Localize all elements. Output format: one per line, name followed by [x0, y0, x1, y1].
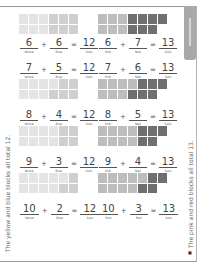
addend-a: 7Pink — [99, 63, 117, 79]
page-number-mark: ■ — [188, 250, 192, 255]
addend-b-value: 5 — [129, 110, 147, 121]
equation: 8Pink+5Red=13Sum — [98, 108, 170, 126]
block-a — [98, 79, 107, 89]
addend-b-value: 4 — [50, 110, 68, 121]
bond-item: 10Yellow+2Blue=12Sum — [19, 202, 91, 247]
section-tab — [184, 6, 196, 60]
equation: 6Pink+7Red=13Sum — [98, 36, 170, 54]
bond-item: 6Yellow+6Blue=12Sum — [19, 14, 91, 59]
block-b — [148, 79, 157, 89]
block-b — [49, 25, 58, 35]
equation: 10Yellow+2Blue=12Sum — [19, 202, 91, 220]
block-a — [118, 79, 127, 89]
block-a — [39, 90, 48, 100]
addend-b: 4Red — [129, 157, 147, 173]
equals-sign: = — [71, 41, 77, 49]
pink-red-column: 6Pink+7Red=13Sum7Pink+6Red=13Sum8Pink+5R… — [98, 14, 170, 247]
block-a — [128, 79, 137, 89]
equals-sign: = — [150, 113, 156, 121]
plus-sign: + — [41, 66, 47, 74]
plus-sign: + — [120, 113, 126, 121]
block-a — [39, 14, 48, 24]
block-b — [69, 90, 78, 100]
equals-sign: = — [71, 66, 77, 74]
block-a — [29, 79, 38, 89]
block-a — [108, 126, 117, 136]
addend-b: 3Blue — [50, 157, 68, 173]
equation: 8Yellow+4Blue=12Sum — [19, 108, 91, 126]
block-a — [118, 90, 127, 100]
block-a — [19, 173, 28, 183]
block-a — [59, 173, 68, 183]
block-a — [118, 126, 127, 136]
addend-a: 8Yellow — [20, 110, 38, 126]
addend-a-label: Pink — [105, 50, 111, 54]
block-a — [49, 137, 58, 147]
sum-value: 12 — [80, 38, 99, 49]
addend-b-value: 5 — [50, 63, 68, 74]
yellow-blue-column: 6Yellow+6Blue=12Sum7Yellow+5Blue=12Sum8Y… — [19, 14, 91, 247]
bond-item: 9Yellow+3Blue=12Sum — [19, 155, 91, 200]
addend-b: 6Blue — [50, 38, 68, 54]
addend-b-value: 6 — [129, 63, 147, 74]
addend-b: 3Red — [130, 204, 148, 220]
block-a — [49, 126, 58, 136]
block-a — [98, 90, 107, 100]
equals-sign: = — [150, 66, 156, 74]
addend-a: 10Yellow — [20, 204, 39, 220]
block-a — [108, 137, 117, 147]
empty-slot — [158, 184, 167, 194]
block-b — [69, 25, 78, 35]
sum-value: 12 — [80, 157, 99, 168]
sum-value: 13 — [159, 63, 178, 74]
block-grid — [98, 173, 170, 193]
addend-b-value: 3 — [130, 204, 148, 215]
addend-a-value: 8 — [20, 110, 38, 121]
block-a — [49, 173, 58, 183]
block-b — [148, 126, 157, 136]
bond-item: 8Pink+5Red=13Sum — [98, 108, 170, 153]
block-a — [19, 79, 28, 89]
sum: 12Sum — [80, 38, 99, 54]
addend-b: 5Blue — [50, 63, 68, 79]
block-b — [138, 79, 147, 89]
block-a — [108, 25, 117, 35]
addend-b: 7Red — [129, 38, 147, 54]
sum: 12Sum — [80, 157, 99, 173]
equals-sign: = — [72, 207, 78, 215]
block-b — [69, 79, 78, 89]
bond-item: 6Pink+7Red=13Sum — [98, 14, 170, 59]
sum-value: 13 — [159, 110, 178, 121]
block-b — [59, 79, 68, 89]
block-a — [128, 137, 137, 147]
addend-a-value: 7 — [99, 63, 117, 74]
equals-sign: = — [71, 160, 77, 168]
block-b — [69, 173, 78, 183]
block-a — [118, 25, 127, 35]
sum: 12Sum — [80, 204, 99, 220]
block-a — [108, 14, 117, 24]
block-b — [148, 184, 157, 194]
sum-label: Sum — [86, 75, 93, 79]
addend-a-value: 8 — [99, 110, 117, 121]
block-b — [138, 14, 147, 24]
addend-a-label: Pink — [105, 216, 111, 220]
addend-a: 9Pink — [99, 157, 117, 173]
plus-sign: + — [42, 207, 48, 215]
bond-item: 8Yellow+4Blue=12Sum — [19, 108, 91, 153]
block-b — [59, 90, 68, 100]
block-b — [59, 14, 68, 24]
sum: 13Sum — [159, 38, 178, 54]
block-grid — [98, 79, 170, 99]
addend-a-value: 9 — [99, 157, 117, 168]
block-a — [19, 90, 28, 100]
bond-item: 10Pink+3Red=13Sum — [98, 202, 170, 247]
addend-a-value: 9 — [20, 157, 38, 168]
addend-a-label: Yellow — [25, 216, 34, 220]
sum: 12Sum — [80, 63, 99, 79]
empty-slot — [158, 25, 167, 35]
block-a — [118, 14, 127, 24]
equals-sign: = — [150, 160, 156, 168]
addend-a: 10Pink — [99, 204, 118, 220]
sum: 12Sum — [80, 110, 99, 126]
